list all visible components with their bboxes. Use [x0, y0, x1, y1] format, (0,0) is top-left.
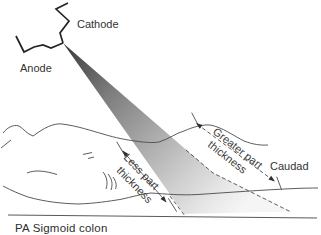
- table-line: [8, 215, 317, 218]
- cathode-label: Cathode: [77, 18, 119, 30]
- figure-caption: PA Sigmoid colon: [15, 222, 107, 234]
- diagram-canvas: Cathode Anode Greater part thickness Les…: [0, 0, 321, 235]
- xray-beam: [63, 43, 290, 214]
- less-thickness-upper-tick: [117, 142, 124, 154]
- patient-skin-stroke-1: [83, 153, 92, 155]
- caudad-label: Caudad: [270, 160, 309, 172]
- greater-thickness-upper-arrowhead: [196, 123, 203, 129]
- anode-symbol: [16, 36, 63, 52]
- patient-skin-fold-1: [103, 172, 107, 189]
- patient-skin-stroke-2: [88, 157, 94, 159]
- xray-projection-diagram: Cathode Anode Greater part thickness Les…: [0, 0, 321, 235]
- cathode-filament-symbol: [56, 3, 69, 43]
- patient-skin-fold-3: [113, 177, 116, 189]
- anode-label: Anode: [20, 62, 52, 74]
- greater-thickness-lower-tick: [277, 177, 282, 190]
- patient-skin-fold-2: [108, 174, 112, 190]
- greater-thickness-lower-arrowhead: [268, 176, 275, 182]
- patient-shoulder-stroke: [1, 140, 11, 148]
- patient-arm-line: [27, 171, 57, 174]
